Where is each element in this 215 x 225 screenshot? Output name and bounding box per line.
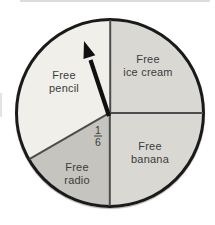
- spinner-figure: Free ice cream Free banana Free radio Fr…: [0, 0, 215, 225]
- sector-label-banana: Free banana: [131, 140, 169, 166]
- sector-label-line: pencil: [49, 82, 79, 95]
- fraction-numerator: 1: [94, 125, 102, 136]
- scan-artifact: [0, 93, 2, 117]
- sector-label-line: Free: [49, 69, 79, 82]
- sector-divider-right: [110, 112, 203, 114]
- sector-label-line: Free: [123, 53, 172, 66]
- sector-divider-top: [109, 20, 111, 113]
- fraction-denominator: 6: [94, 136, 102, 148]
- sector-divider-bottom: [109, 113, 111, 206]
- sector-label-line: banana: [131, 153, 169, 166]
- fraction-label: 1 6: [94, 125, 102, 148]
- sector-label-line: ice cream: [123, 66, 172, 79]
- scan-artifact: [20, 0, 210, 2]
- sector-label-line: Free: [131, 140, 169, 153]
- sector-label-line: Free: [64, 161, 89, 174]
- sector-label-line: radio: [64, 174, 89, 187]
- sector-label-ice-cream: Free ice cream: [123, 53, 172, 79]
- sector-label-radio: Free radio: [64, 161, 89, 187]
- sector-label-pencil: Free pencil: [49, 69, 79, 95]
